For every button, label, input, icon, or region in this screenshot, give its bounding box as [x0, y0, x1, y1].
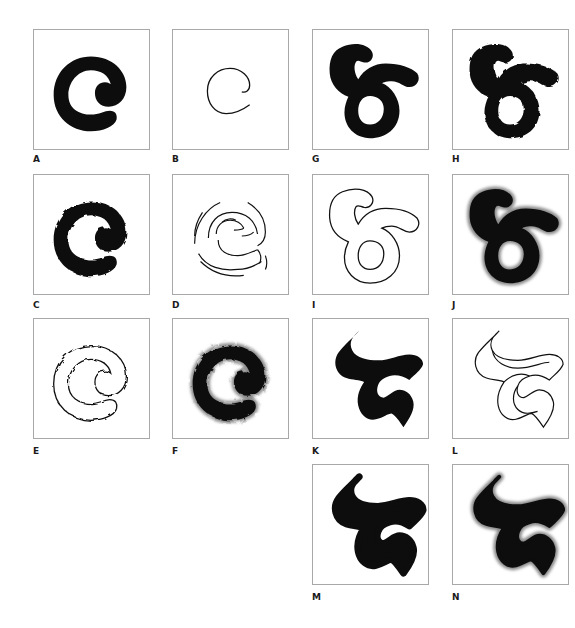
loop-glyph-outline-icon [313, 175, 428, 294]
panel-i [312, 174, 429, 295]
panel-k [312, 318, 429, 439]
panel-label-m: M [312, 592, 321, 602]
panel-g [312, 29, 429, 150]
loop-glyph-halo-icon [453, 175, 568, 294]
panel-n [452, 464, 569, 585]
panel-e [33, 318, 150, 439]
panel-label-c: C [33, 300, 40, 310]
c-spiral-halo-icon [173, 319, 288, 438]
panel-label-l: L [452, 446, 458, 456]
panel-j [452, 174, 569, 295]
calligraphic-glyph-thick-icon [313, 465, 428, 584]
panel-label-i: I [312, 300, 315, 310]
panel-label-f: F [172, 446, 178, 456]
panel-label-d: D [172, 300, 179, 310]
panel-h [452, 29, 569, 150]
calligraphic-glyph-solid-icon [313, 319, 428, 438]
c-spiral-rough-icon [34, 175, 149, 294]
panel-label-b: B [172, 154, 179, 164]
panel-c [33, 174, 150, 295]
panel-l [452, 318, 569, 439]
loop-glyph-rough-icon [453, 30, 568, 149]
panel-label-j: J [452, 300, 455, 310]
panel-f [172, 318, 289, 439]
loop-glyph-solid-icon [313, 30, 428, 149]
panel-label-e: E [33, 446, 39, 456]
panel-m [312, 464, 429, 585]
panel-label-k: K [312, 446, 319, 456]
c-spiral-outline-icon [34, 319, 149, 438]
panel-label-n: N [452, 592, 460, 602]
calligraphic-glyph-halo-icon [453, 465, 568, 584]
calligraphic-glyph-outline-icon [453, 319, 568, 438]
c-spiral-centerline-icon [173, 30, 288, 149]
panel-d [172, 174, 289, 295]
panel-label-h: H [452, 154, 460, 164]
panel-label-a: A [33, 154, 40, 164]
panel-label-g: G [312, 154, 319, 164]
c-spiral-solid-icon [34, 30, 149, 149]
panel-a [33, 29, 150, 150]
panel-b [172, 29, 289, 150]
c-spiral-sketch-strokes-icon [173, 175, 288, 294]
